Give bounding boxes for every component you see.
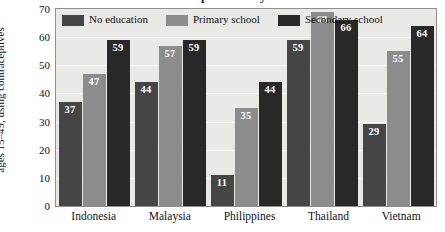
legend-swatch-no-education <box>62 15 84 26</box>
x-axis-label-thailand: Thailand <box>308 210 349 222</box>
bar-value-label: 11 <box>217 178 228 189</box>
bar-group-indonesia: 374759 <box>59 9 130 206</box>
legend: No education Primary school Secondary sc… <box>62 13 383 26</box>
bar-group-thailand: 596966 <box>287 9 358 206</box>
legend-item: Secondary school <box>278 13 383 26</box>
bar: 69 <box>311 12 334 206</box>
bar-value-label: 37 <box>64 105 75 116</box>
bar-value-label: 57 <box>164 49 175 60</box>
bar: 59 <box>287 40 310 206</box>
bar: 35 <box>235 108 258 207</box>
bar-value-label: 47 <box>88 77 99 88</box>
bar: 37 <box>59 102 82 206</box>
bar: 57 <box>159 46 182 206</box>
bar-group-vietnam: 295564 <box>363 9 434 206</box>
legend-item: No education <box>62 13 148 26</box>
y-axis-tick-50: 50 <box>39 59 50 71</box>
bar-value-label: 55 <box>392 54 403 65</box>
bar: 47 <box>83 74 106 206</box>
legend-label-secondary-school: Secondary school <box>305 13 383 26</box>
y-axis-tick-0: 0 <box>45 200 51 212</box>
y-axis-tick-70: 70 <box>39 3 50 15</box>
bar-group-malaysia: 445759 <box>135 9 206 206</box>
bar: 11 <box>211 175 234 206</box>
x-axis-labels: IndonesiaMalaysiaPhilippinesThailandViet… <box>55 210 437 222</box>
bar-group-philippines: 113544 <box>211 9 282 206</box>
y-axis-tick-40: 40 <box>39 87 50 99</box>
bar: 44 <box>259 82 282 206</box>
y-axis-tick-30: 30 <box>39 116 50 128</box>
bar-groups: 374759445759113544596966295564 <box>56 9 436 206</box>
x-axis-label-vietnam: Vietnam <box>382 210 421 222</box>
legend-swatch-secondary-school <box>278 15 300 26</box>
y-axis-ticks: 010203040506070 <box>28 8 50 208</box>
bar-chart: Contraceptive use by level of education … <box>0 0 445 232</box>
bar: 29 <box>363 124 386 206</box>
bar-value-label: 35 <box>240 111 251 122</box>
x-axis-label-indonesia: Indonesia <box>71 210 116 222</box>
chart-title-strip: Contraceptive use by level of education <box>0 0 445 6</box>
bar-value-label: 64 <box>416 29 427 40</box>
y-axis-tick-10: 10 <box>39 172 50 184</box>
bar-value-label: 59 <box>112 43 123 54</box>
y-axis-tick-20: 20 <box>39 144 50 156</box>
bar-value-label: 44 <box>264 85 275 96</box>
legend-swatch-primary-school <box>166 15 188 26</box>
y-axis-label-line-2: ages 15–49, using contraceptives <box>0 0 7 200</box>
legend-label-no-education: No education <box>89 13 148 26</box>
x-axis-label-malaysia: Malaysia <box>149 210 191 222</box>
bar: 64 <box>411 26 434 206</box>
x-axis-label-philippines: Philippines <box>224 210 276 222</box>
bar-value-label: 29 <box>368 127 379 138</box>
legend-item: Primary school <box>166 13 260 26</box>
bar: 55 <box>387 51 410 206</box>
y-axis-label: Percentage of married women, ages 15–49,… <box>0 0 7 200</box>
plot-area: No education Primary school Secondary sc… <box>55 8 437 207</box>
bar-value-label: 59 <box>292 43 303 54</box>
bar-value-label: 44 <box>140 85 151 96</box>
legend-label-primary-school: Primary school <box>193 13 260 26</box>
bar: 59 <box>107 40 130 206</box>
bar: 59 <box>183 40 206 206</box>
y-axis-tick-60: 60 <box>39 31 50 43</box>
bar: 66 <box>335 20 358 206</box>
bar-value-label: 59 <box>188 43 199 54</box>
chart-title: Contraceptive use by level of education <box>150 0 366 4</box>
bar: 44 <box>135 82 158 206</box>
